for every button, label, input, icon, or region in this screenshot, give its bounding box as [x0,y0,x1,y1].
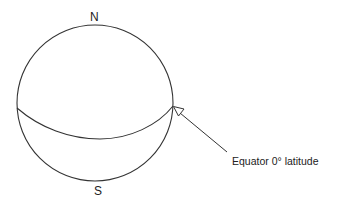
globe-svg [0,0,337,205]
equator-line [17,106,173,139]
equator-pointer-arrow [174,107,228,153]
equator-label: Equator 0° latitude [232,155,319,167]
south-pole-label: S [94,184,102,198]
north-pole-label: N [90,10,99,24]
globe-outline [17,25,173,181]
globe-diagram: N S Equator 0° latitude [0,0,337,205]
